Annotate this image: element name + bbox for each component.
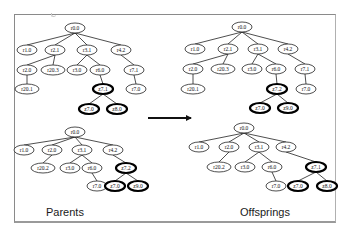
tree-node-label: r20.2	[213, 164, 225, 170]
tree-edge	[100, 75, 103, 84]
tree-edge	[259, 152, 272, 162]
tree-edge	[121, 55, 134, 65]
tree-node-label: r3.1	[255, 144, 264, 150]
tree-edge	[288, 54, 305, 64]
tree-diagram: r0.0r1.0r2.1r3.1r4.2r2.0r20.3r3.0r6.0r7.…	[0, 0, 350, 235]
tree-edge	[305, 74, 306, 84]
highlighted-tree-node: z7.1	[93, 84, 113, 94]
tree-node: r20.3	[211, 64, 235, 74]
tree-node-label: r6.0	[88, 165, 97, 171]
tree-node-label: z8.0	[112, 106, 122, 112]
tree-node-label: r2.0	[23, 67, 32, 73]
tree-edge	[82, 155, 92, 163]
tree-node: r6.0	[90, 65, 110, 75]
tree-node-label: r3.0	[241, 164, 250, 170]
tree-node-label: r0.0	[238, 24, 247, 30]
tree-node: r20.3	[41, 65, 65, 75]
tree-edge	[113, 155, 126, 163]
tree-edge	[276, 74, 277, 84]
tree-node-label: r3.1	[78, 147, 87, 153]
tree-node: r2.0	[219, 142, 239, 152]
tree-node-label: r2.0	[48, 147, 57, 153]
tree-edge	[245, 152, 259, 162]
tree-node: r7.0	[126, 84, 146, 94]
tree-edge	[126, 173, 138, 181]
tree-edge	[252, 54, 258, 64]
tree-node-label: z7.0	[293, 183, 303, 189]
tree-node-label: r1.0	[23, 47, 32, 53]
tree-edge	[53, 55, 55, 65]
highlighted-tree-node: z7.0	[250, 103, 270, 113]
tree-node: r7.0	[266, 181, 286, 191]
tree-parent-1: r0.0r1.0r2.1r3.1r4.2r2.0r20.3r3.0r6.0r7.…	[15, 23, 146, 114]
tree-node-label: z7.2	[121, 165, 131, 171]
tree-node: r20.2	[207, 162, 231, 172]
tree-edge	[89, 94, 103, 104]
tree-node-label: r4.2	[109, 147, 118, 153]
tree-node-label: r1.0	[20, 147, 29, 153]
tree-edge	[52, 137, 75, 145]
tree-node-label: z7.2	[272, 86, 282, 92]
tree-node-label: z9.0	[133, 183, 143, 189]
tree-node: r4.2	[276, 142, 296, 152]
tree-edge	[286, 152, 316, 162]
tree-node: r0.0	[65, 127, 85, 137]
tree-edge	[27, 55, 55, 65]
tree-node-label: r3.0	[248, 66, 257, 72]
tree-edge	[298, 172, 316, 181]
tree-node-label: r6.0	[96, 67, 105, 73]
highlighted-tree-node: z7.0	[79, 104, 99, 114]
highlighted-tree-node: z7.2	[267, 84, 287, 94]
tree-node-label: r20.1	[187, 86, 199, 92]
tree-node: r20.2	[31, 163, 55, 173]
tree-node-label: r2.1	[224, 46, 233, 52]
parents-caption: Parents	[46, 206, 84, 218]
tree-node: r2.1	[218, 44, 238, 54]
tree-node-label: r6.0	[272, 66, 281, 72]
tree-edge	[115, 173, 126, 181]
tree-node: r7.0	[296, 84, 316, 94]
tree-node-label: z7.0	[84, 106, 94, 112]
tree-node: r4.2	[111, 45, 131, 55]
tree-node-label: r20.1	[21, 86, 33, 92]
highlighted-tree-node: z8.0	[317, 181, 337, 191]
tree-edge	[277, 94, 288, 103]
tree-node-label: r1.0	[191, 46, 200, 52]
tree-node: r3.1	[249, 142, 269, 152]
tree-node-label: r20.3	[217, 66, 229, 72]
tree-edge	[272, 172, 276, 181]
tree-node-label: r20.2	[37, 165, 49, 171]
tree-node: r3.0	[235, 162, 255, 172]
highlighted-tree-node: z7.0	[105, 181, 125, 191]
tree-node: r0.0	[234, 123, 254, 133]
tree-node: r3.1	[72, 145, 92, 155]
tree-node-label: r7.0	[132, 86, 141, 92]
tree-node: r7.1	[295, 64, 315, 74]
tree-node: r6.0	[262, 162, 282, 172]
tree-offspring-1: r0.0r1.0r2.1r3.1r4.2r2.0r20.3r3.0r6.0r7.…	[181, 22, 316, 113]
tree-node: r0.0	[65, 23, 85, 33]
tree-node: r2.1	[45, 45, 65, 55]
tree-node: r1.0	[185, 44, 205, 54]
tree-edge	[260, 94, 277, 103]
tree-node-label: r7.0	[272, 183, 281, 189]
highlighted-tree-node: z7.1	[306, 162, 326, 172]
tree-edge	[242, 32, 288, 44]
tree-node-label: r20.3	[47, 67, 59, 73]
tree-node-label: r1.0	[195, 144, 204, 150]
offsprings-caption: Offsprings	[240, 206, 290, 218]
tree-edge	[103, 94, 117, 104]
tree-node: r2.0	[17, 65, 37, 75]
tree-node-label: r2.0	[225, 144, 234, 150]
tree-node-label: r2.1	[51, 47, 60, 53]
tree-node-label: z7.1	[98, 86, 108, 92]
tree-node: r3.0	[242, 64, 262, 74]
tree-node-label: r0.0	[240, 125, 249, 131]
tree-node-label: r4.2	[282, 144, 291, 150]
tree-node-label: z7.0	[110, 183, 120, 189]
tree-node-label: r0.0	[71, 129, 80, 135]
tree-edge	[27, 33, 75, 45]
highlighted-tree-node: z9.0	[128, 181, 148, 191]
tree-node-label: r7.0	[302, 86, 311, 92]
tree-edge	[258, 54, 276, 64]
